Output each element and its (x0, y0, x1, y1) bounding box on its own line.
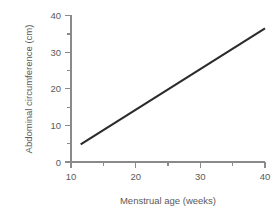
y-tick-label-20: 20 (50, 83, 61, 94)
y-axis-major-ticks (65, 16, 71, 162)
x-axis-title: Menstrual age (weeks) (120, 195, 216, 206)
x-tick-label-20: 20 (130, 171, 141, 182)
x-tick-label-40: 40 (260, 171, 271, 182)
chart-plot-area: 0 10 20 30 40 10 20 30 40 Menstrual age … (0, 0, 280, 218)
y-tick-label-10: 10 (50, 120, 61, 131)
x-tick-label-10: 10 (66, 171, 77, 182)
data-series-line (81, 28, 265, 144)
y-tick-label-0: 0 (56, 157, 61, 168)
y-tick-label-30: 30 (50, 47, 61, 58)
y-tick-label-40: 40 (50, 10, 61, 21)
x-tick-label-30: 30 (195, 171, 206, 182)
y-axis-title: Abdominal circumference (cm) (23, 25, 34, 154)
chart-figure: 0 10 20 30 40 10 20 30 40 Menstrual age … (0, 0, 280, 218)
